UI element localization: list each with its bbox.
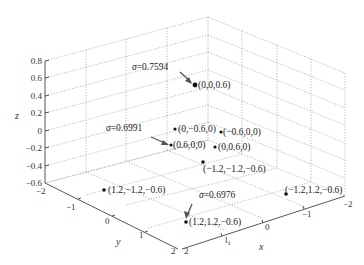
point-labels: (0,0,0.6) (0,−0.6,0) (−0.6,0,0) (0.6,0,0… <box>108 80 342 228</box>
svg-text:(0.6,0,0): (0.6,0,0) <box>173 140 205 151</box>
x-tick: 0 <box>265 222 270 232</box>
z-tick: −0.2 <box>26 143 42 153</box>
z-axis-label: z <box>14 110 19 121</box>
point-0-0.6-0 <box>213 145 216 148</box>
y-tick: 1 <box>139 230 144 240</box>
z-tick: 0.2 <box>31 108 42 118</box>
z-tick: 0.6 <box>31 73 43 83</box>
x-tick: 2 <box>184 246 189 256</box>
annotation-sigma-0.6976: σ=0.6976 <box>199 190 235 200</box>
x-tick: −2 <box>343 199 353 209</box>
point-1.2-m1.2-m0.6 <box>102 188 106 192</box>
z-tick: −0.4 <box>26 161 43 171</box>
annotation-sigma-0.7594: σ=0.7594 <box>132 62 168 72</box>
svg-text:(0,0,0.6): (0,0,0.6) <box>198 80 230 91</box>
svg-text:(−1.2,−1.2,−0.6): (−1.2,−1.2,−0.6) <box>203 164 266 175</box>
y-tick: 0 <box>105 216 110 226</box>
svg-text:(1.2,−1.2,−0.6): (1.2,−1.2,−0.6) <box>108 185 165 196</box>
data-points <box>102 83 288 224</box>
y-tick-labels: −2 −1 0 1 2 <box>36 186 176 256</box>
x-axis-label: x <box>258 241 264 252</box>
annotation-sigma-0.6991: σ=0.6991 <box>106 123 142 133</box>
x-tick: −1 <box>302 209 312 219</box>
svg-text:(0,−0.6,0): (0,−0.6,0) <box>178 124 216 135</box>
svg-text:(1.2,1.2,−0.6): (1.2,1.2,−0.6) <box>189 217 241 228</box>
z-tick: 0 <box>38 126 43 136</box>
point-0-0-0.6 <box>193 83 198 88</box>
3d-scatter-plot: 0.8 0.6 0.4 0.2 0 −0.2 −0.4 −0.6 z −2 −1… <box>0 0 364 265</box>
point-1.2-1.2-m0.6 <box>184 220 188 224</box>
point-0-m0.6-0 <box>173 127 176 130</box>
z-tick: 0.4 <box>31 91 43 101</box>
z-tick-labels: 0.8 0.6 0.4 0.2 0 −0.2 −0.4 −0.6 <box>26 56 43 188</box>
y-axis-label: y <box>115 236 121 247</box>
y-tick: −2 <box>36 186 46 196</box>
svg-text:(0,0.6,0): (0,0.6,0) <box>218 142 250 153</box>
x-tick-labels: 2 0 −1 −2 <box>184 199 353 256</box>
y-tick: 2 <box>171 246 176 256</box>
grid-back-left-wall <box>45 17 208 183</box>
z-tick: 0.8 <box>31 56 43 66</box>
l1-annotation: l1 <box>225 235 231 246</box>
grid-floor <box>45 140 311 230</box>
y-tick: −1 <box>66 202 76 212</box>
svg-text:(−0.6,0,0): (−0.6,0,0) <box>223 127 261 138</box>
svg-text:(−1.2,1.2,−0.6): (−1.2,1.2,−0.6) <box>285 185 342 196</box>
